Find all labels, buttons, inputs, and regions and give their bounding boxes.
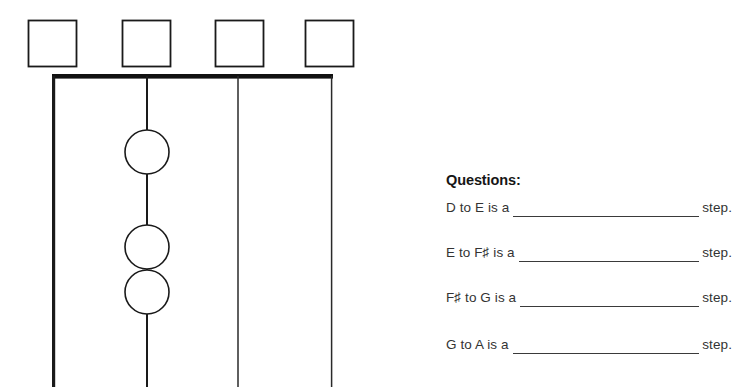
step-diagram: [0, 0, 380, 387]
question-row: D to E is a step.: [446, 200, 732, 220]
question-suffix: step.: [702, 290, 732, 305]
question-suffix: step.: [702, 245, 732, 260]
question-answer-blank[interactable]: [513, 216, 699, 217]
question-row: F♯ to G is a step.: [446, 290, 732, 310]
worksheet-page: Questions: D to E is a step. E to F♯ is …: [0, 0, 755, 387]
question-prompt: E to F♯ is a: [446, 245, 517, 260]
question-row: G to A is a step.: [446, 337, 732, 357]
questions-panel: Questions: D to E is a step. E to F♯ is …: [444, 172, 744, 377]
answer-box-1[interactable]: [29, 21, 77, 67]
answer-box-group: [29, 21, 354, 67]
question-answer-blank[interactable]: [513, 353, 700, 354]
nut-bar: [52, 74, 333, 79]
question-prompt: G to A is a: [446, 337, 511, 352]
note-circle-1[interactable]: [125, 130, 169, 174]
question-answer-blank[interactable]: [520, 306, 699, 307]
note-circle-2[interactable]: [125, 225, 169, 269]
answer-box-4[interactable]: [306, 21, 354, 67]
step-diagram-canvas: [0, 0, 380, 387]
question-row: E to F♯ is a step.: [446, 245, 732, 265]
question-suffix: step.: [702, 200, 732, 215]
question-prompt: F♯ to G is a: [446, 290, 518, 305]
questions-heading: Questions:: [446, 172, 521, 188]
note-circle-3[interactable]: [125, 270, 169, 314]
question-prompt: D to E is a: [446, 200, 511, 215]
answer-box-2[interactable]: [123, 21, 171, 67]
answer-box-3[interactable]: [216, 21, 264, 67]
question-suffix: step.: [702, 337, 732, 352]
question-answer-blank[interactable]: [519, 261, 699, 262]
vertical-line-group: [54, 76, 332, 387]
